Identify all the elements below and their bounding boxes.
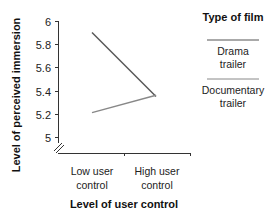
x-category-label-low: Low user control bbox=[71, 165, 114, 191]
svg-text:control: control bbox=[141, 179, 173, 191]
legend-title: Type of film bbox=[203, 11, 264, 23]
y-axis-ticks: 65.85.65.45.25 bbox=[36, 16, 59, 144]
svg-text:High user: High user bbox=[135, 165, 180, 177]
legend-label-drama: Drama bbox=[217, 45, 249, 57]
axis-break-icon bbox=[54, 143, 64, 153]
y-tick-label: 5.2 bbox=[36, 109, 51, 121]
series-line-documentary bbox=[92, 95, 156, 112]
x-category-label-high: High user control bbox=[135, 165, 180, 191]
legend-label-documentary: trailer bbox=[220, 97, 247, 109]
legend: Type of film Drama trailer Documentary t… bbox=[202, 11, 265, 109]
y-tick-label: 6 bbox=[45, 16, 51, 28]
x-axis-title: Level of user control bbox=[70, 198, 178, 210]
y-tick-label: 5 bbox=[45, 132, 51, 144]
svg-text:control: control bbox=[76, 179, 108, 191]
svg-text:Low user: Low user bbox=[71, 165, 114, 177]
y-tick-label: 5.4 bbox=[36, 86, 51, 98]
line-chart: Level of perceived immersion 65.85.65.45… bbox=[0, 0, 272, 216]
legend-label-drama: trailer bbox=[220, 58, 247, 70]
y-tick-label: 5.6 bbox=[36, 62, 51, 74]
series-line-drama bbox=[92, 33, 156, 97]
y-axis-title: Level of perceived immersion bbox=[10, 17, 22, 172]
legend-label-documentary: Documentary bbox=[202, 84, 265, 96]
y-tick-label: 5.8 bbox=[36, 39, 51, 51]
series-lines bbox=[92, 33, 156, 113]
